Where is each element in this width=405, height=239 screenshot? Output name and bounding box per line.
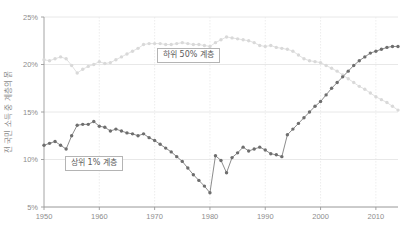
data-point bbox=[252, 41, 255, 44]
data-point bbox=[120, 129, 123, 132]
x-tick-label: 1980 bbox=[202, 212, 219, 221]
data-point bbox=[264, 45, 267, 48]
data-point bbox=[142, 43, 145, 46]
series-line bbox=[44, 37, 398, 110]
income-share-chart: 5%10%15%20%25% 1950196019701980199020002… bbox=[0, 0, 405, 239]
data-point bbox=[64, 57, 67, 60]
data-point bbox=[197, 179, 200, 182]
data-point bbox=[131, 132, 134, 135]
data-point bbox=[236, 37, 239, 40]
data-point bbox=[313, 105, 316, 108]
data-point bbox=[275, 46, 278, 49]
x-axis-ticks: 1950196019701980199020002010 bbox=[36, 207, 385, 221]
data-point bbox=[87, 123, 90, 126]
data-point bbox=[391, 45, 394, 48]
data-point bbox=[225, 171, 228, 174]
data-point bbox=[103, 126, 106, 129]
data-point bbox=[308, 59, 311, 62]
data-point bbox=[396, 45, 399, 48]
data-point bbox=[280, 155, 283, 158]
data-point bbox=[291, 127, 294, 130]
data-point bbox=[358, 59, 361, 62]
data-point bbox=[286, 48, 289, 51]
data-point bbox=[347, 77, 350, 80]
data-point bbox=[170, 150, 173, 153]
data-point bbox=[186, 166, 189, 169]
data-point bbox=[258, 44, 261, 47]
x-tick-label: 1950 bbox=[36, 212, 53, 221]
data-point bbox=[313, 60, 316, 63]
data-point bbox=[396, 108, 399, 111]
data-point bbox=[230, 36, 233, 39]
data-point bbox=[136, 134, 139, 137]
data-point bbox=[203, 44, 206, 47]
data-point bbox=[158, 143, 161, 146]
data-point bbox=[341, 75, 344, 78]
data-point bbox=[186, 42, 189, 45]
data-point bbox=[241, 145, 244, 148]
data-point bbox=[230, 156, 233, 159]
data-point bbox=[297, 53, 300, 56]
data-point bbox=[42, 58, 45, 61]
data-point bbox=[380, 48, 383, 51]
data-point bbox=[109, 129, 112, 132]
data-point bbox=[269, 152, 272, 155]
data-point bbox=[335, 81, 338, 84]
data-point bbox=[192, 173, 195, 176]
data-point bbox=[286, 133, 289, 136]
data-point bbox=[352, 81, 355, 84]
data-point bbox=[147, 136, 150, 139]
data-point bbox=[369, 51, 372, 54]
data-point bbox=[48, 59, 51, 62]
x-tick-label: 1970 bbox=[146, 212, 163, 221]
data-point bbox=[264, 148, 267, 151]
data-point bbox=[147, 42, 150, 45]
data-point bbox=[59, 55, 62, 58]
data-point bbox=[374, 50, 377, 53]
data-point bbox=[319, 100, 322, 103]
data-point bbox=[92, 63, 95, 66]
data-point bbox=[358, 85, 361, 88]
x-tick-label: 1990 bbox=[257, 212, 274, 221]
data-point bbox=[175, 155, 178, 158]
data-point bbox=[175, 42, 178, 45]
data-point bbox=[131, 50, 134, 53]
data-point bbox=[374, 95, 377, 98]
data-point bbox=[192, 43, 195, 46]
series-top-1 bbox=[42, 45, 399, 195]
data-point bbox=[125, 131, 128, 134]
data-point bbox=[103, 62, 106, 65]
y-tick-label: 5% bbox=[27, 203, 38, 212]
data-point bbox=[42, 144, 45, 147]
data-point bbox=[158, 42, 161, 45]
y-tick-label: 10% bbox=[23, 155, 38, 164]
data-point bbox=[352, 64, 355, 67]
data-point bbox=[324, 64, 327, 67]
data-point bbox=[136, 47, 139, 50]
data-point bbox=[75, 124, 78, 127]
data-point bbox=[214, 41, 217, 44]
x-tick-label: 2000 bbox=[312, 212, 329, 221]
data-point bbox=[181, 41, 184, 44]
data-point bbox=[225, 35, 228, 38]
data-point bbox=[291, 50, 294, 53]
data-point bbox=[214, 154, 217, 157]
data-point bbox=[153, 139, 156, 142]
data-point bbox=[81, 68, 84, 71]
data-point bbox=[64, 147, 67, 150]
data-point bbox=[269, 44, 272, 47]
data-point bbox=[70, 64, 73, 67]
data-point bbox=[120, 55, 123, 58]
data-point bbox=[114, 127, 117, 130]
data-point bbox=[75, 71, 78, 74]
data-point bbox=[181, 160, 184, 163]
data-point bbox=[48, 142, 51, 145]
data-point bbox=[208, 191, 211, 194]
data-point bbox=[59, 144, 62, 147]
data-point bbox=[164, 43, 167, 46]
data-point bbox=[53, 57, 56, 60]
data-point bbox=[142, 132, 145, 135]
data-point bbox=[275, 153, 278, 156]
data-point bbox=[308, 110, 311, 113]
y-axis-ticks: 5%10%15%20%25% bbox=[23, 13, 44, 212]
